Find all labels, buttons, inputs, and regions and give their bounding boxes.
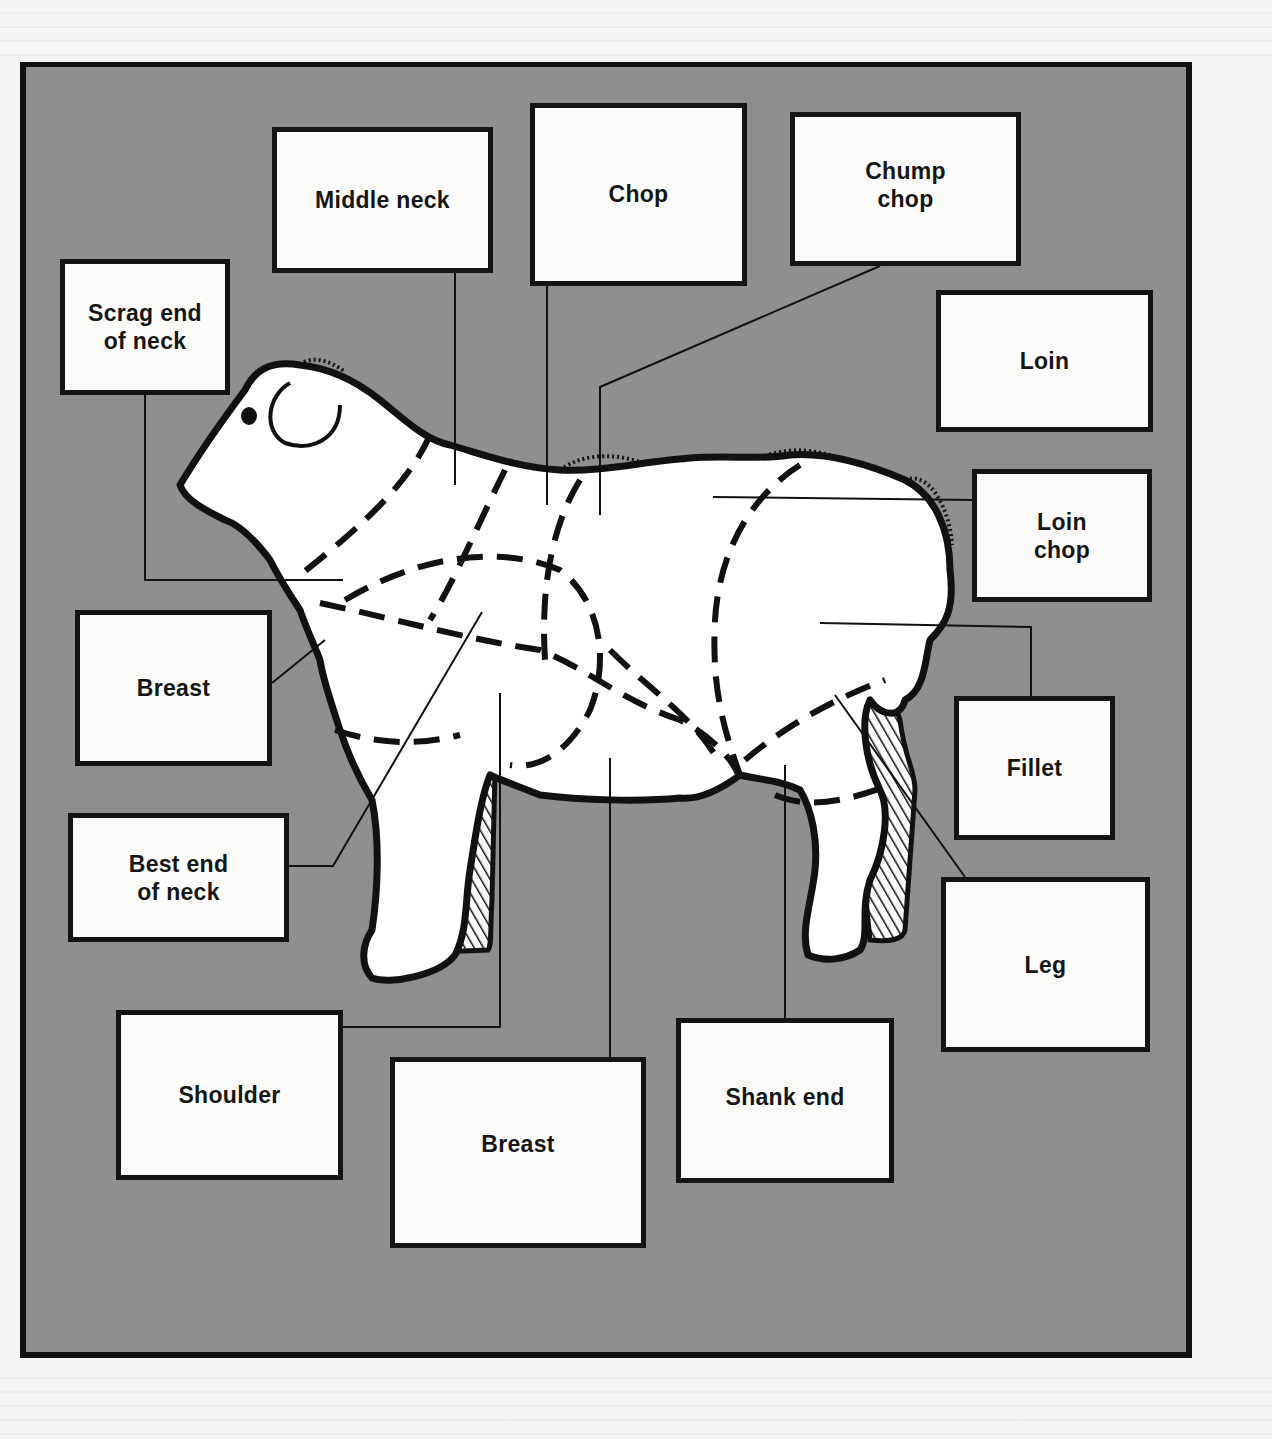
label-text: Shank end bbox=[725, 1083, 844, 1111]
label-text: Chump chop bbox=[865, 157, 946, 213]
sheep-eye-icon bbox=[241, 407, 257, 425]
label-text: Scrag end of neck bbox=[88, 299, 202, 355]
label-text: Leg bbox=[1025, 951, 1067, 979]
label-text: Middle neck bbox=[315, 186, 450, 214]
label-text: Loin chop bbox=[1034, 508, 1090, 564]
label-text: Breast bbox=[137, 674, 210, 702]
label-loin-chop: Loin chop bbox=[972, 469, 1152, 602]
label-shank-end: Shank end bbox=[676, 1018, 894, 1183]
label-best-end-of-neck: Best end of neck bbox=[68, 813, 289, 942]
label-text: Best end of neck bbox=[129, 850, 229, 906]
label-text: Fillet bbox=[1007, 754, 1062, 782]
label-text: Chop bbox=[609, 180, 669, 208]
label-fillet: Fillet bbox=[954, 696, 1115, 840]
label-loin: Loin bbox=[936, 290, 1153, 432]
label-chop: Chop bbox=[530, 103, 747, 286]
sheep-body-icon bbox=[180, 360, 952, 981]
label-chump-chop: Chump chop bbox=[790, 112, 1021, 266]
label-breast-bottom: Breast bbox=[390, 1057, 646, 1248]
label-text: Shoulder bbox=[178, 1081, 280, 1109]
label-scrag-end-of-neck: Scrag end of neck bbox=[60, 259, 230, 395]
label-shoulder: Shoulder bbox=[116, 1010, 343, 1180]
label-text: Loin bbox=[1020, 347, 1070, 375]
label-middle-neck: Middle neck bbox=[272, 127, 493, 273]
label-breast-left: Breast bbox=[75, 610, 272, 766]
label-text: Breast bbox=[481, 1130, 554, 1158]
label-leg: Leg bbox=[941, 877, 1150, 1052]
